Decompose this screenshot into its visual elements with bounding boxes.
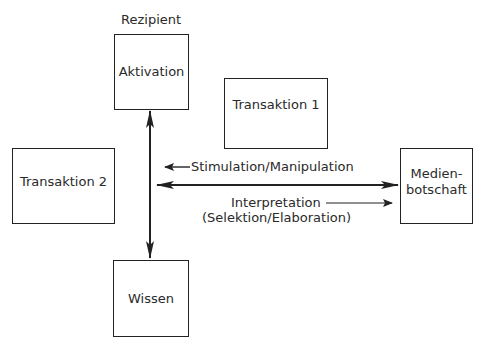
transaktion1-label: Transaktion 1 [232, 97, 319, 113]
medienbotschaft-box: Medien- botschaft [400, 148, 473, 224]
transaktion2-box: Transaktion 2 [12, 148, 115, 224]
wissen-label: Wissen [128, 291, 174, 307]
wissen-box: Wissen [113, 260, 189, 337]
aktivation-label: Aktivation [119, 64, 185, 80]
medienbotschaft-label-line1: Medien- [410, 166, 462, 182]
medienbotschaft-label-line2: botschaft [406, 182, 467, 198]
stimulation-label: Stimulation/Manipulation [191, 159, 354, 175]
interpretation-label-line2: (Selektion/Elaboration) [202, 210, 351, 226]
interpretation-label-line1: Interpretation [231, 195, 321, 211]
transaktion2-label: Transaktion 2 [20, 174, 107, 190]
transaktion1-box: Transaktion 1 [224, 78, 328, 149]
aktivation-box: Aktivation [114, 34, 189, 110]
rezipient-label: Rezipient [121, 12, 181, 28]
